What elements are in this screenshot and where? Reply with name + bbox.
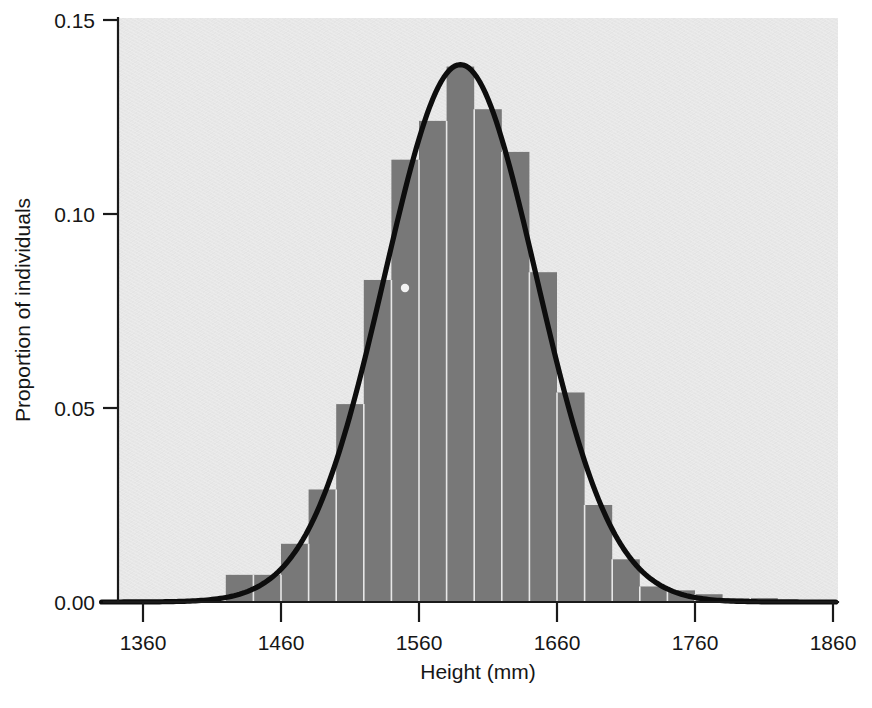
histogram-bar [336,404,364,602]
histogram-bar [529,272,557,602]
histogram-chart: 0.150.100.050.00 13601460156016601760186… [0,0,872,708]
histogram-bar [474,109,502,602]
x-axis-title: Height (mm) [420,660,536,683]
figure-container: 0.150.100.050.00 13601460156016601760186… [0,0,872,708]
histogram-bar [309,489,337,602]
y-axis-ticks: 0.150.100.050.00 [54,9,118,614]
y-tick-label: 0.15 [54,9,95,32]
x-tick-label: 1360 [120,631,167,654]
x-tick-label: 1660 [534,631,581,654]
y-tick-label: 0.10 [54,203,95,226]
x-tick-label: 1560 [396,631,443,654]
histogram-bar [364,280,392,602]
histogram-bar [419,121,447,602]
y-axis-title: Proportion of individuals [11,198,34,422]
x-axis-ticks: 136014601560166017601860 [120,602,857,654]
y-tick-label: 0.05 [54,397,95,420]
x-tick-label: 1860 [810,631,857,654]
x-tick-label: 1460 [258,631,305,654]
histogram-bar [447,67,475,602]
y-tick-label: 0.00 [54,591,95,614]
paper-speck [401,284,409,292]
x-tick-label: 1760 [672,631,719,654]
